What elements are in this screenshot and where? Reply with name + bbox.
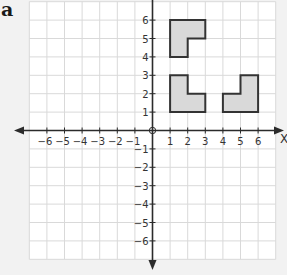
y-tick-label: −5 bbox=[134, 218, 149, 229]
y-tick-label: −4 bbox=[134, 199, 149, 210]
x-tick-label: 5 bbox=[237, 136, 243, 147]
x-tick-label: 3 bbox=[202, 136, 208, 147]
x-axis-label: X bbox=[280, 132, 287, 146]
y-tick-label: −2 bbox=[134, 162, 149, 173]
x-tick-label: 2 bbox=[185, 136, 191, 147]
x-tick-label: −5 bbox=[55, 136, 70, 147]
y-tick-label: 3 bbox=[142, 70, 148, 81]
y-tick-label: 4 bbox=[142, 52, 148, 63]
y-tick-label: −1 bbox=[134, 144, 149, 155]
y-tick-label: −3 bbox=[134, 181, 149, 192]
x-axis-left-arrow-icon bbox=[14, 127, 24, 135]
y-tick-label: −6 bbox=[134, 236, 149, 247]
x-tick-label: 1 bbox=[167, 136, 173, 147]
y-axis-down-arrow-icon bbox=[149, 260, 157, 270]
y-tick-label: 5 bbox=[142, 34, 148, 45]
y-tick-label: 2 bbox=[142, 89, 148, 100]
coordinate-grid: −6−5−4−3−2−1123456654321−1−2−3−4−5−6X bbox=[0, 0, 287, 275]
y-tick-label: 6 bbox=[142, 15, 148, 26]
x-tick-label: −6 bbox=[38, 136, 53, 147]
y-tick-label: 1 bbox=[142, 107, 148, 118]
x-tick-label: −4 bbox=[73, 136, 88, 147]
x-tick-label: −2 bbox=[108, 136, 123, 147]
x-tick-label: −3 bbox=[90, 136, 105, 147]
x-tick-label: 6 bbox=[255, 136, 261, 147]
x-tick-label: 4 bbox=[220, 136, 226, 147]
